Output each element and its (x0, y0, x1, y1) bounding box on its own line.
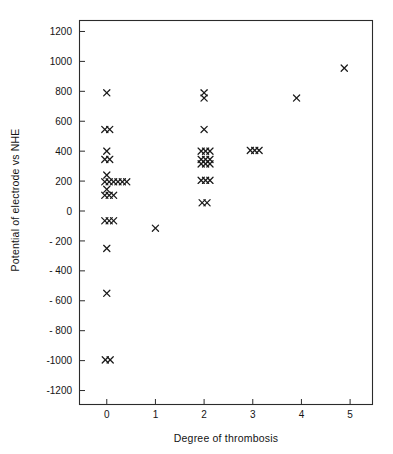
y-tick-label: -1200 (46, 385, 72, 396)
plot-frame (80, 21, 373, 405)
y-tick-label: -1000 (46, 355, 72, 366)
y-tick-label: - 400 (49, 265, 72, 276)
y-tick-label: 0 (66, 206, 72, 217)
x-tick-label: 0 (104, 409, 110, 420)
y-tick-label: - 600 (49, 295, 72, 306)
y-tick-label: - 200 (49, 236, 72, 247)
y-tick-label: 200 (55, 176, 72, 187)
x-tick-label: 4 (299, 409, 305, 420)
x-tick-label: 2 (201, 409, 207, 420)
y-tick-label: 1200 (50, 26, 73, 37)
y-tick-label: 400 (55, 146, 72, 157)
scatter-chart-figure: Potential of electrode vs NHE Degree of … (0, 0, 393, 454)
y-tick-label: 800 (55, 86, 72, 97)
x-tick-label: 5 (347, 409, 353, 420)
y-tick-label: - 800 (49, 325, 72, 336)
y-tick-label: 1000 (50, 56, 73, 67)
y-tick-label: 600 (55, 116, 72, 127)
x-tick-label: 3 (250, 409, 256, 420)
x-tick-label: 1 (153, 409, 159, 420)
plot-area-svg: -1200-1000- 800- 600- 400- 2000200400600… (0, 0, 393, 454)
